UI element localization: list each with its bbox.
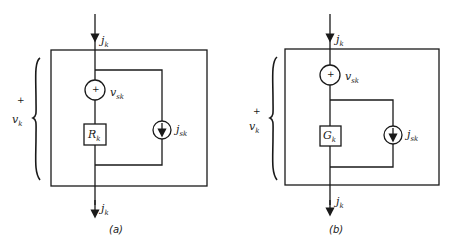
- current-label-top: jk: [98, 34, 109, 49]
- panel-a: + vsk Rk jsk jk jk + vk: [12, 14, 207, 235]
- voltage-source-plus: +: [92, 84, 100, 94]
- branch-voltage-plus: +: [253, 106, 261, 116]
- current-label-bottom: jk: [333, 195, 344, 210]
- voltage-source-plus: +: [327, 69, 335, 79]
- panel-b: + vsk Gk jsk jk jk + vk: [249, 14, 439, 235]
- branch-voltage-label: vk: [12, 113, 22, 128]
- caption-b: (b): [329, 224, 343, 235]
- caption-a: (a): [109, 224, 123, 235]
- circuit-figure: + vsk Rk jsk jk jk + vk: [0, 0, 450, 247]
- branch-voltage-plus: +: [17, 95, 25, 105]
- branch-boundary-box: [285, 49, 439, 185]
- branch-voltage-label: vk: [249, 120, 259, 135]
- brace-icon: [270, 57, 277, 180]
- brace-icon: [33, 58, 40, 180]
- current-label-top: jk: [333, 33, 344, 48]
- current-label-bottom: jk: [98, 202, 109, 217]
